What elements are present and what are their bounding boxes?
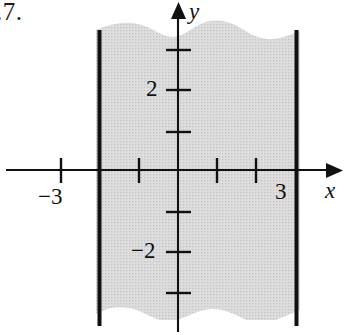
x-axis-label: x <box>325 178 335 204</box>
y-tick-label-negative-two: −2 <box>131 238 155 264</box>
y-axis-label: y <box>189 0 199 25</box>
y-tick-label-two: 2 <box>146 76 158 102</box>
problem-number: .7. <box>0 0 23 26</box>
graph-figure: .7. <box>0 0 346 335</box>
x-tick-label-negative-three: −3 <box>38 184 62 210</box>
coordinate-plane-svg <box>0 0 346 335</box>
x-tick-label-three: 3 <box>275 179 287 205</box>
shaded-region <box>90 15 306 320</box>
